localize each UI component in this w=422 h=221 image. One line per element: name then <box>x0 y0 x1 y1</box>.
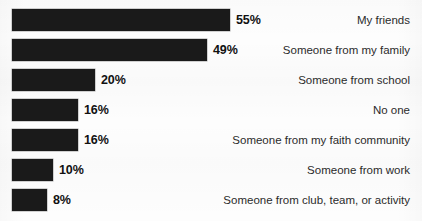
chart-row: 49% Someone from my family <box>0 35 422 65</box>
bar-fill <box>12 39 207 61</box>
horizontal-bar-chart: 55% My friends 49% Someone from my famil… <box>0 0 422 221</box>
bar-track <box>12 99 78 121</box>
bar-fill <box>12 129 78 151</box>
bar-value-label: 16% <box>84 99 109 121</box>
bar-fill <box>12 189 47 211</box>
bar-fill <box>12 9 230 31</box>
bar-value-label: 55% <box>236 9 261 31</box>
bar-category-label: Someone from club, team, or activity <box>223 189 410 211</box>
bar-value-label: 20% <box>101 69 126 91</box>
bar-track <box>12 159 53 181</box>
bar-fill <box>12 159 53 181</box>
chart-row: 20% Someone from school <box>0 65 422 95</box>
bar-category-label: Someone from work <box>307 159 410 181</box>
bar-value-label: 8% <box>53 189 71 211</box>
chart-row: 55% My friends <box>0 5 422 35</box>
bar-category-label: Someone from my faith community <box>232 129 410 151</box>
bar-category-label: My friends <box>357 9 410 31</box>
bar-value-label: 49% <box>213 39 238 61</box>
bar-fill <box>12 99 78 121</box>
bar-category-label: Someone from my family <box>283 39 410 61</box>
chart-row: 10% Someone from work <box>0 155 422 185</box>
bar-category-label: No one <box>373 99 410 121</box>
chart-row: 16% Someone from my faith community <box>0 125 422 155</box>
bar-value-label: 16% <box>84 129 109 151</box>
bar-track <box>12 39 207 61</box>
bar-fill <box>12 69 95 91</box>
chart-row: 8% Someone from club, team, or activity <box>0 185 422 215</box>
bar-track <box>12 9 230 31</box>
chart-row: 16% No one <box>0 95 422 125</box>
bar-track <box>12 129 78 151</box>
bar-track <box>12 189 47 211</box>
bar-category-label: Someone from school <box>298 69 410 91</box>
bar-value-label: 10% <box>59 159 84 181</box>
bar-track <box>12 69 95 91</box>
